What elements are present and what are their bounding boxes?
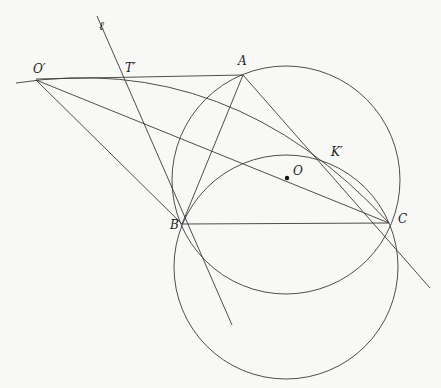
lower-circle	[174, 155, 398, 379]
label-t-prime: T′	[125, 62, 136, 74]
label-o: O	[293, 165, 303, 177]
label-k-prime: K′	[331, 146, 343, 158]
circumcircle-abc	[172, 66, 400, 294]
geometry-diagram: ℓ O′ T′ A K′ O B C	[0, 0, 441, 388]
segment-o-prime-b	[36, 80, 182, 224]
label-a: A	[238, 55, 247, 67]
diagram-canvas	[0, 0, 441, 388]
line-l	[97, 16, 232, 325]
label-o-prime: O′	[33, 63, 46, 75]
point-o	[285, 176, 289, 180]
label-line-l: ℓ	[99, 20, 104, 32]
segment-ab	[182, 75, 243, 224]
label-c: C	[398, 213, 407, 225]
segment-bc	[182, 223, 389, 224]
label-b: B	[170, 219, 179, 231]
segment-ac-extended	[243, 75, 430, 288]
